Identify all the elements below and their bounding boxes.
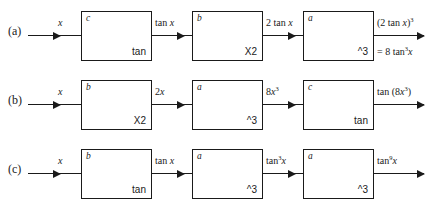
signal-label-input-a: x — [58, 17, 62, 29]
arrow-c2-tail — [295, 173, 303, 174]
arrow-input-c — [28, 173, 60, 174]
row-label-c: (c) — [8, 162, 21, 176]
signal-label-c1: tan x — [155, 155, 174, 167]
arrow-b1 — [152, 104, 184, 105]
arrow-b2-tail — [295, 104, 303, 105]
block-b3-operation: tan — [354, 115, 368, 127]
signal-label-input-c: x — [58, 155, 62, 167]
arrow-a2 — [263, 35, 295, 36]
block-b3: c tan — [303, 80, 374, 130]
block-b1: b X2 — [81, 80, 152, 130]
signal-label-output-a-alt: = 8 tan3x — [377, 46, 413, 58]
block-c3-operation: ^3 — [358, 184, 368, 196]
block-b2: a ^3 — [192, 80, 263, 130]
arrow-c1-tail — [184, 173, 192, 174]
arrow-b1-tail — [184, 104, 192, 105]
block-diagram: (a) x c tan tan x b X2 2 tan x a ^3 (2 t… — [0, 0, 432, 206]
arrow-input-tail-a — [60, 35, 81, 36]
signal-label-c2: tan3x — [266, 155, 286, 167]
arrow-input-tail-b — [60, 104, 81, 105]
diagram-row-c: (c) x b tan tan x a ^3 tan3x a ^3 tan9x — [0, 138, 432, 206]
signal-label-input-b: x — [58, 86, 62, 98]
block-c2: a ^3 — [192, 149, 263, 199]
block-a2-operation: X2 — [245, 46, 257, 58]
arrow-output-a — [374, 35, 424, 36]
diagram-row-a: (a) x c tan tan x b X2 2 tan x a ^3 (2 t… — [0, 0, 432, 68]
signal-label-a1: tan x — [155, 17, 174, 29]
block-c3-letter: a — [308, 151, 313, 162]
block-a2: b X2 — [192, 11, 263, 61]
signal-label-output-c: tan9x — [377, 155, 397, 167]
block-c1-operation: tan — [132, 184, 146, 196]
arrow-a1-tail — [184, 35, 192, 36]
block-b1-operation: X2 — [134, 115, 146, 127]
signal-label-b2: 8x3 — [266, 86, 279, 98]
block-b1-letter: b — [86, 82, 91, 93]
block-a3: a ^3 — [303, 11, 374, 61]
block-c2-letter: a — [197, 151, 202, 162]
signal-label-output-a: (2 tan x)3 — [377, 17, 414, 29]
signal-label-a2: 2 tan x — [266, 17, 293, 29]
block-c3: a ^3 — [303, 149, 374, 199]
arrow-c1 — [152, 173, 184, 174]
arrow-input-tail-c — [60, 173, 81, 174]
block-a3-letter: a — [308, 13, 313, 24]
block-a3-operation: ^3 — [358, 46, 368, 58]
arrow-a1 — [152, 35, 184, 36]
block-a1: c tan — [81, 11, 152, 61]
arrow-input-a — [28, 35, 60, 36]
signal-label-b1: 2x — [155, 86, 164, 98]
diagram-row-b: (b) x b X2 2x a ^3 8x3 c tan tan (8x3) — [0, 69, 432, 137]
signal-label-output-b: tan (8x3) — [377, 86, 411, 98]
block-b2-operation: ^3 — [247, 115, 257, 127]
row-label-a: (a) — [8, 24, 21, 38]
arrow-b2 — [263, 104, 295, 105]
arrow-output-b — [374, 104, 424, 105]
block-b3-letter: c — [308, 82, 312, 93]
block-c2-operation: ^3 — [247, 184, 257, 196]
block-a1-operation: tan — [132, 46, 146, 58]
block-c1-letter: b — [86, 151, 91, 162]
block-a1-letter: c — [86, 13, 90, 24]
arrow-a2-tail — [295, 35, 303, 36]
arrow-output-c — [374, 173, 424, 174]
arrow-c2 — [263, 173, 295, 174]
block-c1: b tan — [81, 149, 152, 199]
block-a2-letter: b — [197, 13, 202, 24]
row-label-b: (b) — [8, 93, 22, 107]
block-b2-letter: a — [197, 82, 202, 93]
arrow-input-b — [28, 104, 60, 105]
